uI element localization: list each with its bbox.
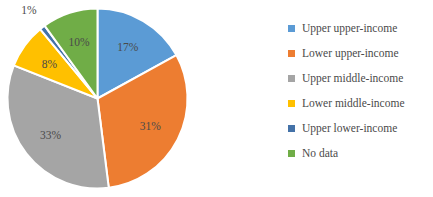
pie-slice-label: 10% <box>69 36 91 48</box>
pie-slice-label: 8% <box>42 58 58 70</box>
legend-item-label: No data <box>302 148 338 160</box>
pie-slice-group <box>7 9 187 189</box>
pie-slice-label: 31% <box>140 120 162 132</box>
legend-item-label: Upper middle-income <box>302 73 403 85</box>
legend-item-label: Lower upper-income <box>302 48 399 60</box>
legend-swatch-icon <box>288 75 295 82</box>
pie-slice-label: 33% <box>40 129 62 141</box>
legend-item[interactable]: Lower middle-income <box>288 91 433 116</box>
legend-item-label: Upper lower-income <box>302 123 397 135</box>
pie-chart: 17%31%33%8%1%10% Upper upper-incomeLower… <box>0 0 433 197</box>
pie-plot-area: 17%31%33%8%1%10% <box>0 0 200 197</box>
legend-swatch-icon <box>288 100 295 107</box>
chart-legend: Upper upper-incomeLower upper-incomeUppe… <box>288 16 433 166</box>
pie-slice-label: 1% <box>21 4 37 16</box>
pie-slice-label: 17% <box>117 41 139 53</box>
legend-item[interactable]: No data <box>288 141 433 166</box>
legend-item[interactable]: Upper upper-income <box>288 16 433 41</box>
legend-swatch-icon <box>288 50 295 57</box>
legend-swatch-icon <box>288 25 295 32</box>
legend-item[interactable]: Upper middle-income <box>288 66 433 91</box>
legend-item-label: Lower middle-income <box>302 98 405 110</box>
legend-item[interactable]: Lower upper-income <box>288 41 433 66</box>
pie-svg: 17%31%33%8%1%10% <box>0 0 200 197</box>
legend-item-label: Upper upper-income <box>302 23 397 35</box>
legend-swatch-icon <box>288 150 295 157</box>
legend-swatch-icon <box>288 125 295 132</box>
legend-item[interactable]: Upper lower-income <box>288 116 433 141</box>
